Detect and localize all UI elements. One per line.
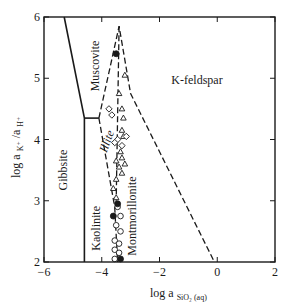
triangle-marker (119, 106, 125, 111)
x-tick-label: 0 (214, 265, 220, 279)
y-tick-label: 6 (34, 10, 40, 24)
y-tick-label: 3 (34, 194, 40, 208)
diamond-marker (106, 106, 112, 112)
y-tick-label: 5 (34, 71, 40, 85)
triangle-marker (116, 91, 122, 96)
open-circle-marker (116, 241, 122, 247)
triangle-marker (121, 115, 127, 120)
x-axis-title: log a SiO₂ (aq) (150, 286, 207, 302)
region-label-kaolinite: Kaolinite (89, 206, 103, 251)
triangle-marker (119, 127, 125, 132)
diamond-marker (119, 142, 125, 148)
y-axis-title: log a K⁺ /a H⁺ (9, 117, 26, 178)
region-label-muscovite: Muscovite (88, 41, 102, 92)
diamond-marker (109, 112, 115, 118)
phase-boundary-solid (64, 17, 84, 262)
triangle-marker (113, 176, 119, 181)
open-circle-marker (112, 256, 118, 262)
filled-circle-marker (118, 256, 124, 262)
region-label-k-feldspar: K-feldspar (171, 73, 222, 87)
triangle-marker (113, 158, 119, 163)
filled-circle-marker (115, 201, 121, 207)
filled-circle-marker (113, 51, 119, 57)
stability-diagram: −6−4−20223456 GibbsiteMuscoviteIlliteK-f… (0, 0, 293, 306)
region-label-gibbsite: Gibbsite (56, 150, 70, 191)
y-tick-label: 2 (34, 255, 40, 269)
x-tick-label: −4 (95, 265, 108, 279)
triangle-marker (119, 170, 125, 175)
x-tick-label: −2 (153, 265, 166, 279)
open-circle-marker (118, 213, 124, 219)
triangle-marker (122, 72, 128, 77)
region-labels: GibbsiteMuscoviteIlliteK-feldsparKaolini… (56, 41, 223, 256)
open-circle-marker (113, 222, 119, 228)
open-circle-marker (118, 229, 124, 235)
region-label-montmorillonite: Montmorillonite (125, 176, 139, 255)
plot-frame (44, 17, 275, 262)
triangle-marker (113, 195, 119, 200)
open-circle-marker (116, 250, 122, 256)
y-tick-label: 4 (34, 133, 40, 147)
triangle-marker (118, 149, 124, 154)
triangle-marker (119, 155, 125, 160)
x-tick-label: 2 (272, 265, 278, 279)
filled-circle-marker (110, 213, 116, 219)
triangle-marker (111, 186, 117, 191)
triangle-marker (122, 161, 128, 166)
